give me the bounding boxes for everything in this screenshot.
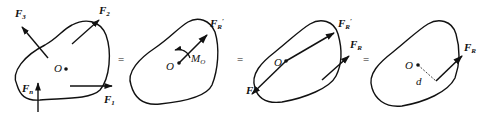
rigid-body-outline	[371, 21, 459, 106]
point-o-label: O	[54, 62, 62, 74]
point-o-label: O	[274, 56, 282, 68]
equals-sign-1: =	[118, 53, 124, 65]
distance-d-label: d	[416, 75, 422, 87]
equals-sign-3: =	[363, 53, 369, 65]
resultant-force-label: FR	[349, 38, 362, 52]
force-f1-label: F1	[103, 93, 115, 107]
force-reduction-diagram: F3 F2 O Fn F1 = FR′ MO O = FR′ FR F O =	[0, 0, 486, 120]
point-o-dot	[177, 61, 181, 65]
moment-arc-arrow	[175, 49, 190, 58]
point-o-dot	[284, 59, 288, 63]
moment-label: MO	[190, 52, 205, 66]
panel-single-resultant: FR d O	[371, 21, 476, 106]
panel-couple-replacement: FR′ FR F O	[245, 17, 362, 102]
point-o-label: O	[405, 59, 413, 71]
point-o-dot	[416, 63, 420, 67]
rigid-body-outline	[254, 21, 341, 103]
force-f2-label: F2	[98, 4, 110, 18]
force-fn-label: Fn	[21, 82, 33, 96]
resultant-force-label: FR′	[209, 17, 224, 31]
point-o-label: O	[166, 60, 174, 72]
force-f3-arrow	[22, 27, 48, 58]
panel-resultant-and-moment: FR′ MO O	[130, 17, 224, 104]
panel-original-force-system: F3 F2 O Fn F1	[14, 4, 115, 112]
couple-force-label: F	[245, 84, 254, 96]
point-o-dot	[64, 67, 68, 71]
force-f3-label: F3	[14, 7, 26, 21]
equals-sign-2: =	[237, 53, 243, 65]
resultant-force-prime-label: FR′	[337, 17, 352, 31]
single-resultant-label: FR	[463, 41, 476, 55]
